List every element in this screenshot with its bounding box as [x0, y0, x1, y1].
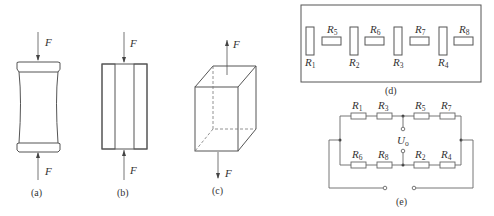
gauge-r5 — [322, 37, 341, 45]
gauge-r4 — [439, 27, 447, 55]
force-label-top: F — [44, 36, 52, 48]
caption-a: (a) — [31, 187, 42, 199]
output-terminal-bottom — [401, 149, 405, 153]
right-wall-hatched — [134, 64, 147, 149]
panel-e: Uo R1 R3 R5 R7 R6 R8 R2 R4 (e) — [329, 99, 473, 208]
figure-canvas: F F (a) F F (b) F — [0, 0, 494, 216]
force-label-top: F — [232, 38, 240, 50]
panel-c: F F (c) — [195, 38, 256, 197]
force-label-bottom: F — [224, 167, 232, 179]
left-wall-hatched — [102, 64, 115, 149]
arrow-head-icon — [36, 55, 40, 61]
label-r5: R5 — [326, 23, 338, 37]
right-side — [57, 72, 59, 143]
label-r3: R3 — [392, 56, 404, 70]
force-label-bottom: F — [129, 164, 137, 176]
label-e-r1: R1 — [351, 99, 363, 113]
gauge-r6 — [365, 37, 384, 45]
gauge-r7 — [410, 37, 429, 45]
top-flange — [17, 62, 61, 72]
caption-d: (d) — [385, 85, 397, 97]
gauge-r2 — [350, 27, 358, 55]
top-face — [195, 66, 256, 87]
caption-b: (b) — [117, 187, 129, 199]
supply-terminal-right — [412, 186, 416, 190]
bottom-flange — [17, 143, 61, 152]
label-e-r8: R8 — [377, 148, 389, 162]
panel-b: F F (b) — [102, 32, 147, 199]
resistor-r6 — [351, 162, 366, 168]
resistor-r5 — [414, 113, 429, 119]
resistor-r1 — [351, 113, 366, 119]
caption-e: (e) — [396, 196, 407, 208]
label-r8: R8 — [458, 23, 470, 37]
label-e-r3: R3 — [377, 99, 389, 113]
arrow-head-icon — [216, 173, 220, 179]
supply-terminal-left — [383, 186, 387, 190]
force-label-bottom: F — [44, 165, 52, 177]
tube-outline — [102, 64, 147, 149]
gauge-r3 — [394, 27, 402, 55]
label-r6: R6 — [369, 23, 381, 37]
resistor-r4 — [440, 162, 455, 168]
arrow-head-icon — [122, 150, 126, 156]
front-face — [195, 87, 238, 151]
arrow-head-icon — [225, 40, 229, 46]
right-face — [238, 66, 256, 151]
panel-a: F F (a) — [17, 32, 61, 199]
label-r1: R1 — [304, 56, 316, 70]
panel-d: R1 R5 R2 R6 R3 R7 R4 R8 (d) — [301, 5, 481, 97]
resistor-r2 — [414, 162, 429, 168]
resistor-r3 — [377, 113, 392, 119]
label-e-r6: R6 — [351, 148, 363, 162]
label-e-r7: R7 — [440, 99, 452, 113]
label-r7: R7 — [414, 23, 426, 37]
label-r2: R2 — [348, 56, 360, 70]
caption-c: (c) — [212, 185, 223, 197]
resistor-r8 — [377, 162, 392, 168]
hidden-edges — [195, 66, 256, 151]
gauge-r1 — [306, 27, 314, 55]
resistor-r7 — [440, 113, 455, 119]
arrow-head-icon — [36, 152, 40, 158]
label-r4: R4 — [437, 56, 449, 70]
force-label-top: F — [129, 37, 137, 49]
label-e-r2: R2 — [414, 148, 426, 162]
label-uo: Uo — [397, 134, 409, 148]
left-side — [19, 72, 21, 143]
arrow-head-icon — [122, 57, 126, 63]
output-terminal-top — [401, 127, 405, 131]
gauge-r8 — [454, 37, 473, 45]
label-e-r5: R5 — [414, 99, 426, 113]
label-e-r4: R4 — [440, 148, 452, 162]
